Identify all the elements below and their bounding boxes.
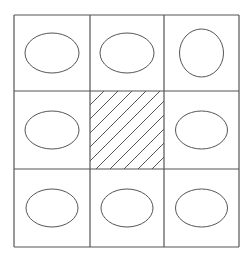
grid-diagram xyxy=(0,0,250,260)
hatch-line xyxy=(194,91,250,169)
ellipse-shape xyxy=(25,111,79,149)
ellipse-shape xyxy=(25,33,79,73)
ellipse-shape xyxy=(100,33,154,73)
ellipse-shape xyxy=(101,189,153,227)
ellipse-shape xyxy=(176,111,228,149)
hatch-line xyxy=(166,91,244,169)
hatch-line xyxy=(236,91,250,169)
hatch-line xyxy=(222,91,250,169)
ellipse-shape xyxy=(176,189,228,227)
cell-shapes xyxy=(12,29,250,227)
hatch-line xyxy=(12,91,90,169)
grid-lines xyxy=(14,15,239,247)
ellipse-shape xyxy=(26,189,78,227)
hatched-cell xyxy=(12,91,250,169)
hatch-line xyxy=(208,91,250,169)
ellipse-shape xyxy=(180,29,224,77)
